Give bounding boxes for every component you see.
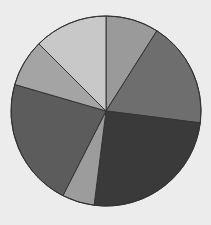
pie-chart bbox=[0, 0, 211, 225]
pie-chart-canvas bbox=[0, 0, 211, 225]
pie-slices bbox=[11, 16, 201, 206]
pie-slice-3 bbox=[94, 111, 200, 206]
